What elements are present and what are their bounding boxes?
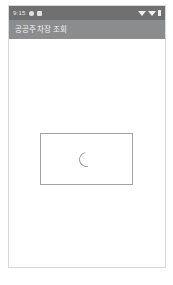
status-bar-system-icons	[138, 10, 161, 16]
status-bar: 9:15	[9, 6, 165, 20]
status-bar-notification-icons	[29, 11, 42, 16]
phone-frame: 9:15 공공주차장 조회	[8, 5, 166, 268]
notification-icon	[37, 11, 42, 16]
content-area	[9, 39, 165, 268]
loading-spinner-icon	[76, 149, 97, 170]
wifi-icon	[138, 11, 146, 16]
screenshot-canvas: 9:15 공공주차장 조회	[0, 0, 173, 285]
signal-icon	[148, 11, 156, 16]
page-title: 공공주차장 조회	[15, 25, 68, 34]
notification-icon	[29, 11, 34, 16]
battery-icon	[158, 10, 161, 16]
app-bar: 공공주차장 조회	[9, 20, 165, 39]
loading-card	[40, 133, 133, 185]
status-bar-clock: 9:15	[13, 10, 25, 16]
